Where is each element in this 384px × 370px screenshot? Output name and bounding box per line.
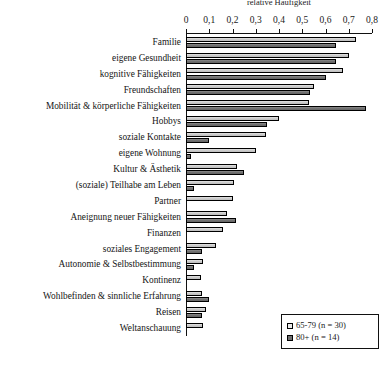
bar-series-65-79 [186,243,216,248]
x-axis-tick [256,29,257,33]
legend-item: 65-79 (n = 30) [287,320,374,331]
bar-series-80plus [186,170,244,175]
bar-row [186,113,372,129]
bar-series-65-79 [186,323,203,328]
bar-series-65-79 [186,275,201,280]
bar-series-65-79 [186,259,203,264]
legend-label: 80+ (n = 14) [296,332,339,343]
bar-chart: relative Häufigkeit 00,10,20,30,40,50,60… [0,0,384,370]
x-axis-tick-label: 0,6 [320,14,332,26]
x-axis-tick [349,29,350,33]
category-label: eigene Gesundheit [112,53,181,63]
x-axis-tick [326,29,327,33]
category-label: Weltanschauung [120,323,181,333]
legend-swatch-icon [287,335,293,341]
category-label: soziales Engagement [103,244,181,254]
bar-row [186,225,372,241]
bar-row [186,82,372,98]
x-axis-tick-labels: 00,10,20,30,40,50,60,70,8 [0,14,384,27]
bar-series-80plus [186,233,187,238]
bar-series-65-79 [186,53,349,58]
bar-series-80plus [186,313,202,318]
category-label: (soziale) Teilhabe am Leben [76,180,181,190]
x-axis-tick-label: 0,2 [227,14,239,26]
chart-legend: 65-79 (n = 30)80+ (n = 14) [281,314,379,349]
bar-series-65-79 [186,68,343,73]
chart-title: relative Häufigkeit [186,0,372,7]
bar-row [186,241,372,257]
bar-row [186,209,372,225]
bar-series-80plus [186,90,310,95]
x-axis-tick-label: 0,5 [296,14,308,26]
bar-row [186,98,372,114]
bar-series-80plus [186,218,236,223]
bar-series-80plus [186,122,267,127]
category-label: kognitive Fähigkeiten [100,69,181,79]
bar-row [186,34,372,50]
x-axis-tick-label: 0,4 [273,14,285,26]
bar-series-65-79 [186,116,279,121]
legend-item: 80+ (n = 14) [287,332,374,343]
bar-series-80plus [186,106,366,111]
bar-series-80plus [186,75,326,80]
x-axis-tick [302,29,303,33]
category-label: Freundschaften [124,85,181,95]
x-axis-tick [186,29,187,33]
bar-row [186,50,372,66]
bar-row [186,288,372,304]
bar-series-65-79 [186,164,237,169]
category-label: Reisen [156,307,181,317]
x-axis-tick-label: 0,8 [366,14,378,26]
bar-series-80plus [186,202,187,207]
bar-series-65-79 [186,291,202,296]
bar-series-80plus [186,43,336,48]
bar-series-80plus [186,265,194,270]
bar-series-65-79 [186,100,309,105]
plot-area [186,33,372,336]
bar-series-65-79 [186,180,234,185]
bar-row [186,129,372,145]
category-label: Kontinenz [142,275,181,285]
bar-row [186,177,372,193]
bar-series-80plus [186,59,336,64]
bar-row [186,66,372,82]
bar-series-80plus [186,154,191,159]
bar-series-80plus [186,249,202,254]
category-label: Partner [154,196,181,206]
bar-series-65-79 [186,307,206,312]
category-label: Kultur & Ästhetik [113,164,181,174]
bar-series-80plus [186,297,209,302]
bar-row [186,193,372,209]
category-labels: Familieeigene Gesundheitkognitive Fähigk… [0,34,184,336]
bar-row [186,161,372,177]
bar-series-65-79 [186,132,266,137]
category-label: Mobilität & körperliche Fähigkeiten [46,101,181,111]
x-axis-tick [279,29,280,33]
bar-series-65-79 [186,211,227,216]
bar-row [186,145,372,161]
bar-series-65-79 [186,148,256,153]
x-axis-tick-label: 0,3 [250,14,262,26]
bar-row [186,256,372,272]
category-label: Aneignung neuer Fähigkeiten [70,212,181,222]
category-label: Finanzen [147,228,181,238]
x-axis-tick [372,29,373,33]
x-axis-tick-label: 0 [184,14,189,26]
legend-swatch-icon [287,323,293,329]
bar-series-80plus [186,329,187,334]
category-label: Hobbys [152,116,181,126]
bar-rows [186,34,372,336]
category-label: eigene Wohnung [119,148,181,158]
x-axis-tick [209,29,210,33]
bar-series-65-79 [186,84,314,89]
bar-series-80plus [186,138,209,143]
bar-series-65-79 [186,227,223,232]
bar-row [186,272,372,288]
x-axis-tick [233,29,234,33]
x-axis-tick-label: 0,1 [203,14,215,26]
category-label: Wohlbefinden & sinnliche Erfahrung [43,291,181,301]
x-axis-tick-label: 0,7 [343,14,355,26]
bar-series-80plus [186,186,194,191]
bar-series-65-79 [186,196,233,201]
legend-label: 65-79 (n = 30) [296,320,346,331]
